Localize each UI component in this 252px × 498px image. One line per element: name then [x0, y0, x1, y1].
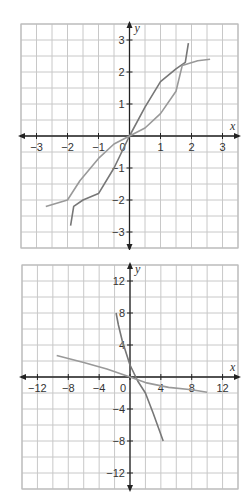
x-axis-label: x [229, 360, 236, 374]
x-tick-label: 0 [120, 382, 126, 394]
y-tick-label: 8 [119, 307, 125, 319]
y-tick-label: 3 [118, 34, 124, 46]
y-tick-label: −2 [112, 194, 125, 206]
x-tick-label: 8 [189, 382, 195, 394]
x-tick-label: 4 [158, 382, 164, 394]
x-tick-label: −1 [92, 141, 105, 153]
x-tick-label: −8 [62, 382, 75, 394]
y-tick-label: −12 [106, 467, 125, 479]
chart-top-svg: −3−2−10123321−1−2−3xy [0, 0, 252, 250]
y-tick-label: 1 [118, 98, 124, 110]
y-axis-label: y [134, 21, 141, 35]
x-axis-label: x [229, 119, 236, 133]
x-tick-label: 2 [188, 141, 194, 153]
chart-bottom: −12−8−4048121284−4−8−12xy [0, 250, 252, 498]
y-tick-label: −8 [112, 435, 125, 447]
x-tick-label: −2 [61, 141, 74, 153]
chart-top: −3−2−10123321−1−2−3xy [0, 0, 252, 250]
x-tick-label: −4 [93, 382, 106, 394]
y-tick-label: 12 [113, 275, 125, 287]
y-tick-label: 2 [118, 66, 124, 78]
x-tick-label: 12 [216, 382, 228, 394]
x-tick-label: 1 [157, 141, 163, 153]
x-tick-label: 3 [219, 141, 225, 153]
x-tick-label: −12 [28, 382, 47, 394]
y-tick-label: −3 [112, 226, 125, 238]
chart-bottom-svg: −12−8−4048121284−4−8−12xy [0, 250, 252, 498]
y-axis-label: y [134, 262, 141, 276]
y-tick-label: −4 [112, 403, 125, 415]
x-tick-label: −3 [30, 141, 43, 153]
